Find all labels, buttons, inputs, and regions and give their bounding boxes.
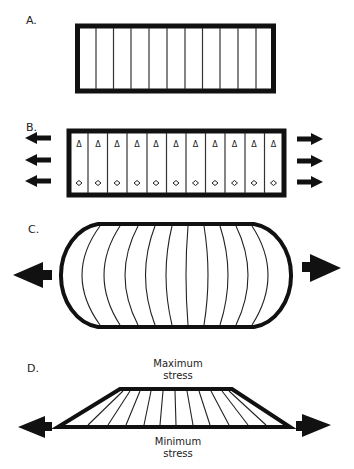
svg-text:Δ: Δ <box>232 140 238 149</box>
delta-markers: ΔΔΔ ΔΔΔ ΔΔΔ ΔΔ <box>76 140 277 149</box>
diamond-markers <box>76 181 277 186</box>
panel-b-box: ΔΔΔ ΔΔΔ ΔΔΔ ΔΔ <box>69 131 284 195</box>
panel-b-left-arrows <box>25 132 51 187</box>
svg-text:Δ: Δ <box>173 140 179 149</box>
svg-text:Δ: Δ <box>271 140 277 149</box>
svg-text:Δ: Δ <box>95 140 101 149</box>
panel-b-right-arrows <box>297 133 323 188</box>
svg-text:Δ: Δ <box>153 140 159 149</box>
panel-d-trapezoid <box>58 389 290 427</box>
svg-text:Δ: Δ <box>114 140 120 149</box>
panel-a-box <box>78 26 274 91</box>
fiber-stress-diagram: ΔΔΔ ΔΔΔ ΔΔΔ ΔΔ <box>0 0 354 469</box>
panel-c-capsule <box>61 224 291 327</box>
svg-text:Δ: Δ <box>76 140 82 149</box>
svg-text:Δ: Δ <box>134 140 140 149</box>
svg-text:Δ: Δ <box>193 140 199 149</box>
svg-text:Δ: Δ <box>251 140 257 149</box>
svg-text:Δ: Δ <box>212 140 218 149</box>
